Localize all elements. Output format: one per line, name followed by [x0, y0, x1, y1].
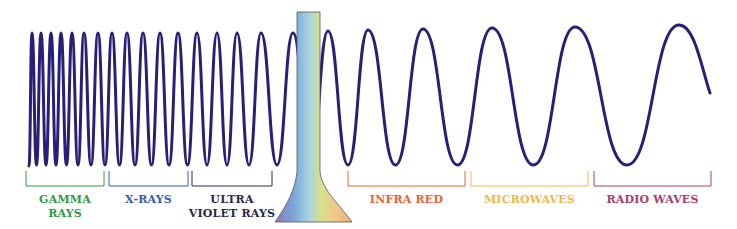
- label-radio: RADIO WAVES: [584, 193, 721, 207]
- label-uv: ULTRAVIOLET RAYS: [182, 193, 282, 221]
- label-gamma-line2: RAYS: [16, 207, 114, 221]
- label-infrared: INFRA RED: [338, 193, 475, 207]
- label-microwaves-line1: MICROWAVES: [461, 193, 598, 207]
- bracket-uv: [192, 171, 272, 186]
- bracket-radio: [594, 171, 711, 186]
- label-uv-line2: VIOLET RAYS: [182, 207, 282, 221]
- bracket-infrared: [348, 171, 465, 186]
- bracket-gamma: [26, 171, 104, 186]
- em-spectrum-diagram: GAMMARAYSX-RAYSULTRAVIOLET RAYSINFRA RED…: [0, 0, 737, 229]
- bracket-microwaves: [471, 171, 588, 186]
- label-uv-line1: ULTRA: [182, 193, 282, 207]
- label-microwaves: MICROWAVES: [461, 193, 598, 207]
- wave-line: [29, 25, 710, 166]
- band-brackets: [26, 171, 711, 186]
- label-infrared-line1: INFRA RED: [338, 193, 475, 207]
- bracket-xrays: [109, 171, 188, 186]
- label-radio-line1: RADIO WAVES: [584, 193, 721, 207]
